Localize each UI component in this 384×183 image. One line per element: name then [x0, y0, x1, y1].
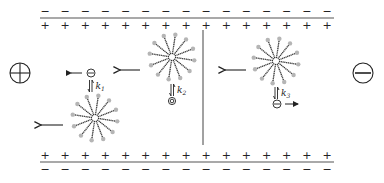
top-wall-positive-charges: +++++++++++++++: [40, 19, 331, 32]
positive-charge-icon: +: [81, 149, 90, 162]
positive-charge-icon: +: [322, 19, 331, 32]
surfactant-head-group: [291, 73, 295, 77]
surfactant-head-group: [296, 62, 300, 66]
negative-charge-icon: −: [242, 5, 251, 18]
k2-subscript: 2: [181, 89, 186, 96]
positive-charge-icon: +: [282, 19, 291, 32]
negative-charge-icon: −: [81, 163, 90, 176]
negative-charge-icon: −: [262, 5, 271, 18]
positive-charge-icon: +: [40, 149, 49, 162]
positive-charge-icon: +: [101, 149, 110, 162]
negative-charge-icon: −: [141, 5, 150, 18]
surfactant-head-group: [148, 51, 152, 55]
positive-charge-icon: +: [262, 149, 271, 162]
equilibrium-k1: k1: [71, 69, 105, 92]
svg-text:k3: k3: [281, 88, 290, 99]
negative-charge-icon: −: [60, 5, 69, 18]
surfactant-tail: [92, 121, 95, 139]
positive-charge-icon: +: [242, 19, 251, 32]
positive-charge-icon: +: [141, 19, 150, 32]
surfactant-head-group: [184, 37, 188, 41]
anode-icon: [10, 63, 30, 83]
svg-text:k2: k2: [177, 85, 186, 96]
negative-charge-icon: −: [141, 163, 150, 176]
surfactant-tail: [95, 97, 98, 115]
negative-charge-icon: −: [101, 163, 110, 176]
negative-charge-icon: −: [302, 5, 311, 18]
negative-charge-icon: −: [161, 5, 170, 18]
positive-charge-icon: +: [81, 19, 90, 32]
surfactant-tail: [151, 54, 169, 57]
surfactant-head-group: [79, 133, 83, 137]
micelle-3: [252, 37, 301, 86]
negative-charge-icon: −: [60, 163, 69, 176]
positive-charge-icon: +: [101, 19, 110, 32]
surfactant-head-group: [266, 38, 270, 42]
negative-charge-icon: −: [262, 163, 271, 176]
positive-charge-icon: +: [322, 149, 331, 162]
cathode-icon: [353, 63, 373, 83]
surfactant-tail: [169, 60, 172, 78]
negative-charge-icon: −: [222, 163, 231, 176]
positive-charge-icon: +: [222, 19, 231, 32]
positive-charge-icon: +: [242, 149, 251, 162]
positive-charge-icon: +: [121, 149, 130, 162]
surfactant-tail: [273, 64, 276, 82]
neutral-solute-icon: [168, 97, 175, 104]
negative-charge-icon: −: [101, 5, 110, 18]
surfactant-tail: [172, 36, 175, 54]
k1-subscript: 1: [101, 85, 105, 92]
positive-charge-icon: +: [121, 19, 130, 32]
surfactant-head-group: [85, 95, 89, 99]
surfactant-tail: [74, 115, 92, 118]
surfactant-head-group: [71, 112, 75, 116]
surfactant-head-group: [149, 63, 153, 67]
negative-charge-icon: −: [40, 163, 49, 176]
positive-charge-icon: +: [262, 19, 271, 32]
negative-charge-icon: −: [282, 5, 291, 18]
surfactant-head-group: [178, 76, 182, 80]
surfactant-head-group: [295, 51, 299, 55]
surfactant-head-group: [162, 34, 166, 38]
micelle-2: [71, 94, 120, 143]
bottom-wall: +++++++++++++++ −−−−−−−−−−−−−−−: [40, 149, 334, 176]
surfactant-head-group: [152, 41, 156, 45]
equilibrium-arrows-icon: [170, 84, 176, 96]
negative-charge-icon: −: [181, 163, 190, 176]
negative-charge-icon: −: [161, 163, 170, 176]
equilibrium-k2: k2: [168, 84, 186, 105]
surfactant-head-group: [96, 94, 100, 98]
positive-charge-icon: +: [60, 149, 69, 162]
surfactant-head-group: [260, 76, 264, 80]
micelle-electrophoresis-diagram: −−−−−−−−−−−−−−− +++++++++++++++ ++++++++…: [0, 0, 384, 183]
surfactant-head-group: [282, 80, 286, 84]
surfactant-head-group: [191, 47, 195, 51]
positive-charge-icon: +: [141, 149, 150, 162]
anion-3-icon: [273, 100, 281, 108]
positive-charge-icon: +: [181, 19, 190, 32]
negative-charge-icon: −: [322, 163, 331, 176]
negative-charge-icon: −: [121, 5, 130, 18]
surfactant-head-group: [192, 58, 196, 62]
surfactant-head-group: [114, 108, 118, 112]
surfactant-tail: [276, 40, 279, 58]
surfactant-head-group: [166, 77, 170, 81]
svg-text:k1: k1: [96, 81, 105, 92]
top-wall: −−−−−−−−−−−−−−− +++++++++++++++: [40, 5, 334, 32]
negative-charge-icon: −: [121, 163, 130, 176]
negative-charge-icon: −: [81, 5, 90, 18]
surfactant-tail: [175, 57, 193, 60]
surfactant-head-group: [110, 130, 114, 134]
positive-charge-icon: +: [181, 149, 190, 162]
surfactant-head-group: [89, 138, 93, 142]
micelle-1: [148, 33, 197, 82]
surfactant-head-group: [173, 33, 177, 37]
positive-charge-icon: +: [201, 149, 210, 162]
positive-charge-icon: +: [161, 19, 170, 32]
negative-charge-icon: −: [201, 163, 210, 176]
surfactant-head-group: [115, 119, 119, 123]
bottom-wall-negative-charges: −−−−−−−−−−−−−−−: [40, 163, 331, 176]
surfactant-tail: [98, 118, 116, 121]
negative-charge-icon: −: [181, 5, 190, 18]
positive-charge-icon: +: [222, 149, 231, 162]
